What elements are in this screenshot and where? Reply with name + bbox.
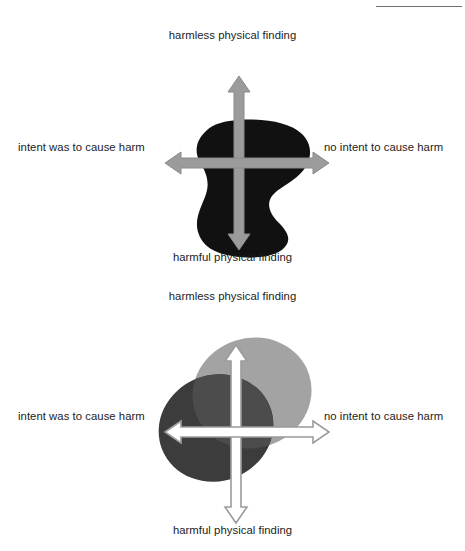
diagram-1-axis-label-right: no intent to cause harm [324,140,443,154]
diagram-overlapping-ellipses: harmless physical finding harmful physic… [0,283,465,551]
page-header-faint-text-secondary [316,2,356,9]
black-region-shape [197,120,310,258]
diagram-2-axis-label-left: intent was to cause harm [18,409,145,423]
diagram-2-axis-label-bottom: harmful physical finding [0,523,465,537]
diagram-2-axis-label-top: harmless physical finding [0,289,465,303]
diagram-1-axis-label-bottom: harmful physical finding [0,250,465,264]
diagram-black-blob: harmless physical finding harmful physic… [0,22,465,277]
diagram-1-axis-label-left: intent was to cause harm [18,140,145,154]
page-header-faint-text [178,0,328,7]
diagram-2-axis-label-right: no intent to cause harm [324,409,443,423]
page-header-rule [376,6,462,7]
diagram-1-axis-label-top: harmless physical finding [0,28,465,42]
